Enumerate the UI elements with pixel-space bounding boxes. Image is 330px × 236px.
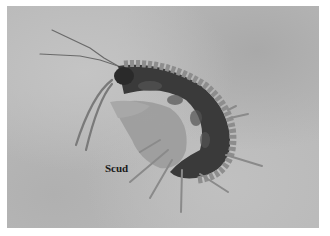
scud-photo: Scud [7,6,319,228]
scud-illustration [7,6,319,228]
species-label: Scud [105,162,128,174]
